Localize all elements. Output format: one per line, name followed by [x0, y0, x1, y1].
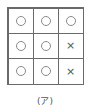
figure-caption: (ア) [0, 94, 90, 107]
circle-icon [41, 16, 51, 26]
tic-tac-toe-grid: ×× [7, 7, 84, 85]
grid-cell-0-0 [8, 8, 34, 34]
circle-icon [16, 66, 26, 76]
grid-cell-0-1 [33, 8, 59, 34]
circle-icon [16, 16, 26, 26]
grid-cell-0-2 [58, 8, 84, 34]
grid-cell-2-0 [8, 58, 34, 84]
cross-icon: × [66, 40, 75, 51]
circle-icon [16, 41, 26, 51]
grid-cell-2-2: × [58, 58, 84, 84]
circle-icon [41, 41, 51, 51]
grid-cell-1-0 [8, 33, 34, 59]
circle-icon [66, 16, 76, 26]
grid-cell-1-2: × [58, 33, 84, 59]
grid-cell-1-1 [33, 33, 59, 59]
circle-icon [41, 66, 51, 76]
grid-cell-2-1 [33, 58, 59, 84]
cross-icon: × [66, 66, 75, 77]
